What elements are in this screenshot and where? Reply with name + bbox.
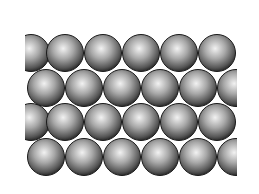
sphere bbox=[85, 35, 122, 72]
sphere bbox=[123, 104, 160, 141]
sphere bbox=[199, 35, 236, 72]
sphere bbox=[123, 35, 160, 72]
sphere bbox=[104, 139, 141, 176]
sphere bbox=[142, 139, 179, 176]
sphere bbox=[85, 104, 122, 141]
sphere bbox=[161, 104, 198, 141]
sphere bbox=[47, 35, 84, 72]
sphere bbox=[199, 104, 236, 141]
sphere bbox=[66, 70, 103, 107]
sphere bbox=[142, 70, 179, 107]
sphere bbox=[180, 139, 217, 176]
sphere bbox=[104, 70, 141, 107]
sphere bbox=[66, 139, 103, 176]
sphere bbox=[13, 35, 50, 72]
sphere bbox=[28, 139, 65, 176]
sphere-layer bbox=[13, 35, 255, 176]
sphere bbox=[47, 104, 84, 141]
sphere-packing-figure bbox=[0, 0, 259, 194]
sphere bbox=[161, 35, 198, 72]
sphere bbox=[180, 70, 217, 107]
sphere bbox=[218, 70, 255, 107]
sphere bbox=[28, 70, 65, 107]
sphere bbox=[13, 104, 50, 141]
sphere bbox=[218, 139, 255, 176]
